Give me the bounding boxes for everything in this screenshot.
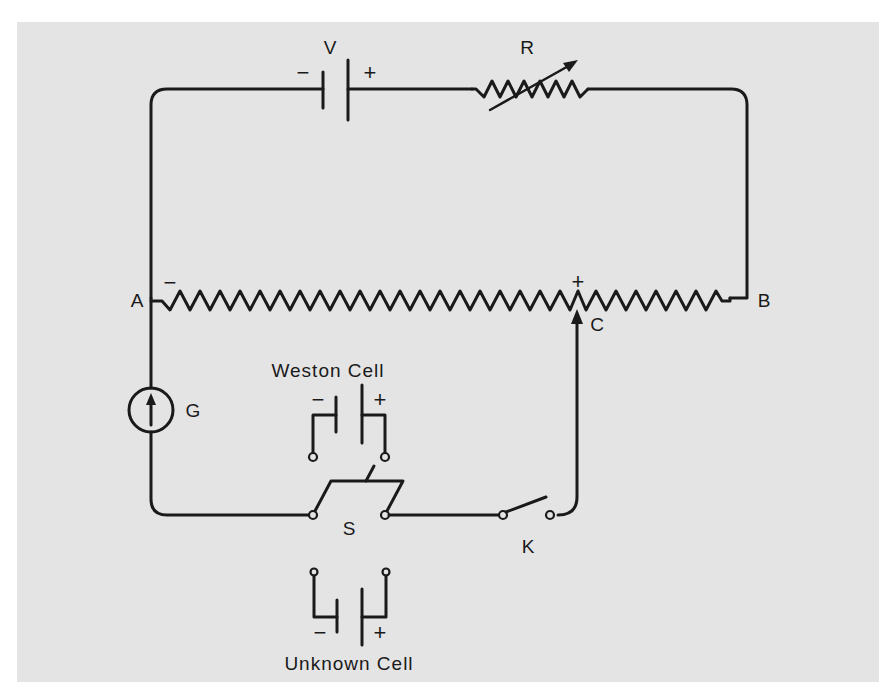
switch-s-label: S: [343, 518, 356, 539]
rheostat-label: R: [520, 37, 534, 58]
wire-right: [588, 89, 747, 298]
key-switch-k[interactable]: K: [499, 497, 554, 557]
battery-neg-sign: −: [297, 60, 310, 85]
slide-wire-pos-sign: +: [572, 269, 585, 294]
slide-wire-a-label: A: [131, 290, 144, 311]
galvanometer-arrow-icon: [146, 393, 156, 405]
unknown-neg-sign: −: [314, 620, 327, 645]
weston-pos-sign: +: [374, 387, 387, 412]
unknown-neg-lead: [314, 576, 337, 617]
weston-pos-lead: [362, 415, 385, 452]
unknown-pos-sign: +: [374, 620, 387, 645]
wire-left-top: [151, 89, 323, 298]
key-k-blade[interactable]: [506, 497, 546, 512]
rheostat-r: R: [472, 37, 588, 110]
switch-s-blades: [315, 481, 403, 511]
slide-wire-neg-sign: −: [164, 270, 177, 295]
weston-neg-terminal: [309, 453, 317, 461]
key-k-right-terminal: [546, 511, 554, 519]
weston-neg-lead: [313, 415, 336, 452]
key-k-label: K: [522, 536, 535, 557]
slide-contact-c-label: C: [590, 314, 604, 335]
unknown-cell: − + Unknown Cell: [284, 569, 413, 675]
weston-cell-label: Weston Cell: [271, 360, 384, 381]
slide-wire-b-label: B: [758, 290, 771, 311]
wire-g-to-s: [151, 432, 310, 515]
rheostat-zigzag: [472, 81, 588, 97]
circuit-diagram: V − + R A B − + C G Weston Cell: [0, 0, 893, 692]
unknown-cell-label: Unknown Cell: [284, 653, 413, 674]
wire-k-to-c: [558, 320, 577, 515]
unknown-neg-terminal: [311, 569, 318, 576]
battery-v: V − +: [297, 37, 377, 120]
selector-switch-s[interactable]: S: [309, 466, 403, 539]
weston-cell: Weston Cell − +: [271, 360, 389, 461]
slide-contact-arrow-head: [571, 309, 583, 324]
unknown-pos-terminal: [383, 569, 390, 576]
weston-neg-sign: −: [312, 387, 325, 412]
galvanometer-label: G: [186, 400, 201, 421]
battery-label: V: [324, 37, 337, 58]
battery-pos-sign: +: [364, 60, 377, 85]
slide-wire-ab: A B − + C: [131, 269, 771, 335]
unknown-pos-lead: [362, 576, 386, 617]
galvanometer-g: G: [129, 388, 200, 432]
slide-wire-zigzag: [151, 291, 730, 310]
switch-s-handle[interactable]: [366, 466, 374, 481]
weston-pos-terminal: [381, 453, 389, 461]
rheostat-arrow-head: [563, 60, 578, 72]
